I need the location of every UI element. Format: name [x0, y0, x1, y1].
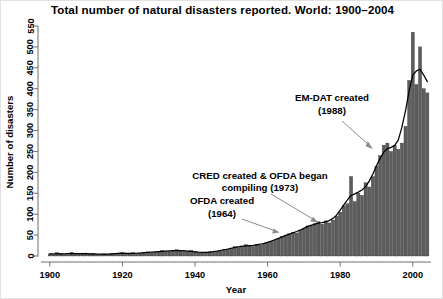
- bar: [241, 246, 244, 256]
- bar: [139, 253, 142, 256]
- bar: [266, 242, 269, 256]
- bar: [197, 253, 200, 256]
- bar: [317, 222, 320, 256]
- annotation-emdat-line2: (1988): [318, 105, 346, 116]
- bar: [63, 255, 66, 256]
- annotation-ofda-line1: OFDA created: [190, 195, 254, 206]
- bar: [350, 177, 353, 256]
- x-tick-label: 1900: [40, 270, 60, 280]
- bar: [320, 224, 323, 256]
- bar: [382, 145, 385, 256]
- y-tick-label: 150: [26, 186, 36, 201]
- x-tick-label: 2000: [403, 270, 423, 280]
- bar: [259, 245, 262, 256]
- bar: [346, 204, 349, 256]
- bar: [335, 216, 338, 256]
- bar: [408, 80, 411, 256]
- bar: [415, 85, 418, 256]
- bar: [237, 248, 240, 256]
- bar: [375, 166, 378, 256]
- bar: [179, 251, 182, 256]
- bar: [342, 206, 345, 256]
- x-axis-title: Year: [226, 284, 247, 295]
- bar: [379, 156, 382, 256]
- bar: [226, 250, 229, 256]
- bar: [201, 253, 204, 256]
- bar: [393, 145, 396, 256]
- y-axis-ticks: 050100150200250300350400450500550: [26, 18, 39, 258]
- x-axis: 190019201940196019802000 Year: [40, 262, 431, 295]
- bar: [212, 252, 215, 256]
- annotation-ofda-line2: (1964): [208, 208, 236, 219]
- bar: [284, 235, 287, 256]
- bar: [426, 93, 429, 256]
- x-tick-label: 1940: [185, 270, 205, 280]
- disasters-bar-chart: 050100150200250300350400450500550 Number…: [1, 1, 443, 299]
- bar: [270, 241, 273, 256]
- bar: [313, 224, 316, 256]
- bar: [389, 151, 392, 256]
- bar: [339, 212, 342, 256]
- bar: [99, 255, 102, 256]
- bar: [368, 187, 371, 256]
- y-tick-label: 50: [26, 230, 36, 240]
- bar: [164, 252, 167, 256]
- bar: [371, 177, 374, 256]
- annotation-cred-line1: CRED created & OFDA began: [192, 170, 327, 181]
- bar: [248, 246, 251, 256]
- bar: [364, 183, 367, 256]
- y-tick-label: 550: [26, 18, 36, 33]
- bar: [230, 248, 233, 256]
- bar: [400, 143, 403, 256]
- bar: [52, 255, 55, 256]
- bar: [281, 237, 284, 256]
- bar: [262, 243, 265, 256]
- bar: [273, 240, 276, 256]
- bar: [291, 232, 294, 256]
- bar: [404, 126, 407, 256]
- y-tick-label: 200: [26, 165, 36, 180]
- bar: [255, 244, 258, 256]
- chart-figure: Total number of natural disasters report…: [0, 0, 443, 299]
- bar: [306, 226, 309, 256]
- annotation-emdat-line1: EM-DAT created: [295, 92, 369, 103]
- annotation-ofda: OFDA created (1964): [190, 195, 280, 234]
- bar: [252, 246, 255, 256]
- bar: [328, 223, 331, 256]
- x-axis-ticks: 190019201940196019802000: [40, 262, 423, 280]
- y-tick-label: 400: [26, 81, 36, 96]
- y-tick-label: 0: [26, 253, 36, 258]
- bar: [277, 238, 280, 256]
- annotation-ofda-arrowhead-icon: [272, 229, 279, 234]
- y-tick-label: 450: [26, 60, 36, 75]
- bar: [288, 234, 291, 256]
- bar: [302, 228, 305, 256]
- annotation-emdat: EM-DAT created (1988): [295, 92, 373, 149]
- y-axis: 050100150200250300350400450500550 Number…: [4, 18, 38, 258]
- y-tick-label: 350: [26, 102, 36, 117]
- bar: [77, 254, 80, 256]
- bar: [81, 254, 84, 256]
- bar: [299, 230, 302, 256]
- annotation-cred-arrowhead-icon: [310, 217, 318, 223]
- y-tick-label: 250: [26, 144, 36, 159]
- bar: [386, 143, 389, 256]
- y-tick-label: 500: [26, 39, 36, 54]
- bar: [154, 252, 157, 256]
- bar: [128, 254, 131, 256]
- x-tick-label: 1980: [330, 270, 350, 280]
- y-tick-label: 100: [26, 207, 36, 222]
- bar: [419, 47, 422, 256]
- y-tick-label: 300: [26, 123, 36, 138]
- bar: [186, 251, 189, 256]
- bar: [215, 251, 218, 256]
- bar: [150, 253, 153, 256]
- bar: [324, 221, 327, 256]
- bar: [295, 233, 298, 256]
- annotation-cred-line2: compiling (1973): [222, 182, 298, 193]
- bar: [219, 251, 222, 256]
- bar: [331, 220, 334, 256]
- bar: [357, 193, 360, 256]
- bar: [168, 251, 171, 256]
- bar: [66, 254, 69, 256]
